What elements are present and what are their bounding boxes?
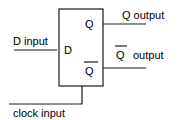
d-flip-flop-diagram: D Q Q D input Q output Q output clock in… [0,0,177,120]
clock-input-wire [9,86,82,104]
q-pin-label: Q [85,18,94,30]
q-bar-pin-label: Q [85,65,94,77]
d-input-label: D input [13,35,48,47]
q-bar-output-label: output [133,49,164,61]
q-output-label: Q output [122,9,164,21]
q-bar-output-symbol: Q [116,49,125,61]
clock-input-label: clock input [13,107,65,119]
d-pin-label: D [64,44,72,56]
